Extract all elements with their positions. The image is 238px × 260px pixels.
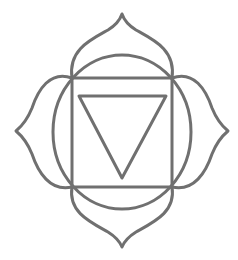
top-petal (72, 14, 173, 78)
bottom-petal (72, 187, 173, 247)
square (72, 78, 172, 187)
chakra-symbol-icon (0, 0, 238, 260)
chakra-diagram: Muladhara (root chakra) symbol (0, 0, 238, 260)
inverted-triangle (79, 96, 166, 178)
